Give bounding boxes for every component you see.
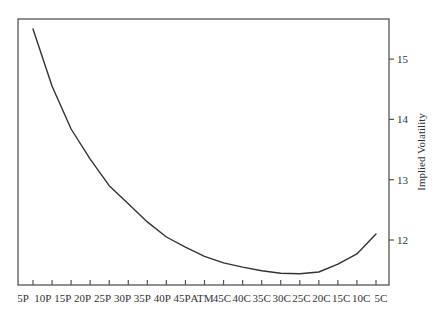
y-axis-ticks: 12131415 — [389, 53, 409, 246]
y-axis-title: Implied Volatility — [415, 113, 427, 191]
y-tick-label: 15 — [397, 53, 409, 65]
x-axis-ticks: 5P10P15P20P25P30P35P40P45PATM45C40C35C30… — [17, 280, 387, 304]
x-tick-label: 25P — [94, 292, 111, 304]
x-tick-label: 10P — [34, 292, 51, 304]
x-tick-label: 15C — [332, 292, 350, 304]
x-tick-label: 45P — [174, 292, 191, 304]
y-tick-label: 12 — [397, 234, 408, 246]
x-tick-label: 40C — [233, 292, 251, 304]
implied-volatility-curve — [33, 29, 376, 274]
x-tick-label: 20P — [74, 292, 91, 304]
x-tick-label: 15P — [54, 292, 71, 304]
x-tick-label: 35P — [134, 292, 151, 304]
y-tick-label: 13 — [397, 174, 409, 186]
x-tick-label: 10C — [352, 292, 370, 304]
y-tick-label: 14 — [397, 113, 409, 125]
x-tick-label: 40P — [154, 292, 171, 304]
x-tick-label: ATM — [190, 292, 213, 304]
volatility-smile-chart: 12131415 5P10P15P20P25P30P35P40P45PATM45… — [0, 0, 443, 311]
x-tick-label: 30P — [114, 292, 131, 304]
plot-frame — [18, 19, 389, 285]
x-tick-label: 25C — [292, 292, 310, 304]
x-tick-label: 5C — [375, 292, 388, 304]
x-tick-label: 20C — [312, 292, 330, 304]
x-tick-label: 5P — [17, 292, 29, 304]
x-tick-label: 35C — [252, 292, 270, 304]
x-tick-label: 45C — [213, 292, 231, 304]
x-tick-label: 30C — [272, 292, 290, 304]
